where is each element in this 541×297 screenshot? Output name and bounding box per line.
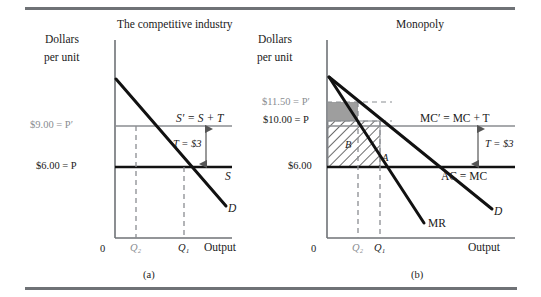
panel-b-tax-label: T = $3 [485,139,514,150]
panel-b-curve-label-demand: D [494,206,502,218]
figure-root: The competitive industry Dollars per uni… [0,0,541,297]
panel-b-y-axis-label-line1: Dollars [258,34,292,46]
panel-b-tick-q1: Q₁ [374,243,385,254]
panel-b-price-label-cost: $6.00 [288,161,312,172]
panel-b-curve-label-ac-mc: AC = MC [441,171,487,183]
panel-b-price-label-p: $10.00 = P [263,115,309,126]
panel-b-price-increase-rect [328,102,358,121]
panel-b-x-axis-label: Output [468,242,500,254]
panel-b-tick-q2: Q₂ [352,243,363,254]
panel-b-y-axis-label-line2: per unit [257,52,292,64]
panel-b-origin-label: 0 [311,244,316,255]
panel-b-price-label-p-prime: $11.50 = P′ [262,97,310,108]
panel-b-point-label-a: A [382,153,388,164]
panel-b-curve-label-mc-shifted: MC′ = MC + T [420,113,490,125]
panel-b-title: Monopoly [396,19,444,31]
panel-b-point-label-b: B [345,140,351,151]
panel-b-curve-label-mr: MR [428,218,446,230]
panel-b-caption: (b) [411,270,423,281]
